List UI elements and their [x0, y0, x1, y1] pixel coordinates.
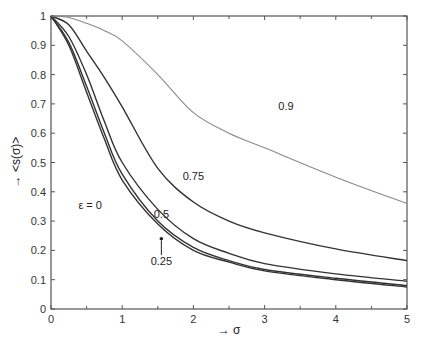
x-tick-label: 2 [190, 313, 196, 325]
y-axis-label: → <s(σ)> [9, 137, 23, 188]
plot-border [51, 16, 407, 309]
x-tick-label: 4 [333, 313, 339, 325]
x-tick-label: 0 [48, 313, 54, 325]
curve-label: ε = 0 [78, 199, 102, 211]
plot-area [51, 16, 407, 309]
y-tick-label: 0 [40, 303, 46, 315]
x-tick-label: 5 [404, 313, 410, 325]
curve-0-5 [51, 16, 407, 281]
y-tick-label: 0.2 [31, 244, 46, 256]
curve-label: 0.25 [151, 255, 172, 267]
y-tick-label: 0.3 [31, 215, 46, 227]
curve-0-25 [51, 16, 407, 286]
y-tick-label: 0.1 [31, 274, 46, 286]
y-tick-label: 0.8 [31, 69, 46, 81]
chart: 01234500.10.20.30.40.50.60.70.80.91 ε = … [0, 0, 424, 351]
y-tick-label: 0.7 [31, 98, 46, 110]
y-tick-label: 0.4 [31, 186, 46, 198]
x-tick-label: 3 [262, 313, 268, 325]
curve-label: 0.5 [154, 208, 169, 220]
curve-labels: ε = 00.250.50.750.9 [78, 100, 293, 267]
curve-label: 0.75 [183, 170, 204, 182]
x-tick-label: 1 [119, 313, 125, 325]
axis-ticks: 01234500.10.20.30.40.50.60.70.80.91 [31, 10, 410, 325]
curve-label: 0.9 [278, 100, 293, 112]
y-tick-label: 0.9 [31, 39, 46, 51]
curve-0 [51, 16, 407, 287]
curve-0-9 [51, 16, 407, 204]
x-axis-label: → σ [218, 323, 241, 337]
y-tick-label: 0.6 [31, 127, 46, 139]
y-tick-label: 0.5 [31, 157, 46, 169]
curves [51, 16, 407, 287]
y-tick-label: 1 [40, 10, 46, 22]
